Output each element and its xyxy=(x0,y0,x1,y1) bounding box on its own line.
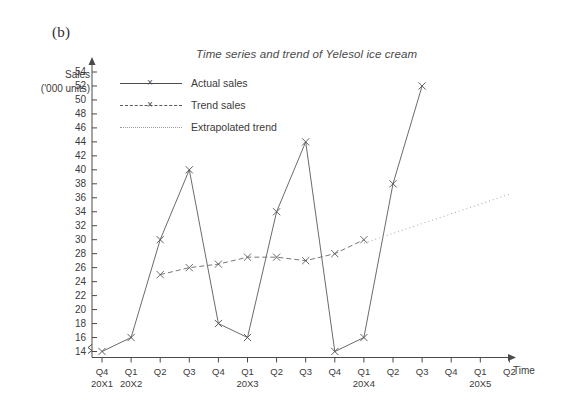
y-axis-tick-40: 40 xyxy=(66,165,86,175)
y-axis-tick-24: 24 xyxy=(66,277,86,287)
y-axis-tick-16: 16 xyxy=(66,333,86,343)
y-axis-tick-38: 38 xyxy=(66,179,86,189)
y-axis-tick-22: 22 xyxy=(66,291,86,301)
x-axis-tick-quarter-11: Q3 xyxy=(409,367,435,377)
y-axis-tick-52: 52 xyxy=(66,81,86,91)
y-axis-tick-32: 32 xyxy=(66,221,86,231)
x-axis-tick-quarter-13: Q1 xyxy=(467,367,493,377)
y-axis-tick-14: 14 xyxy=(66,347,86,357)
figure-container: (b) Time series and trend of Yelesol ice… xyxy=(0,0,567,411)
y-axis-tick-30: 30 xyxy=(66,235,86,245)
x-axis-tick-quarter-7: Q3 xyxy=(293,367,319,377)
y-axis-tick-46: 46 xyxy=(66,123,86,133)
y-axis-tick-18: 18 xyxy=(66,319,86,329)
y-axis-tick-42: 42 xyxy=(66,151,86,161)
y-axis-tick-28: 28 xyxy=(66,249,86,259)
x-axis-tick-quarter-5: Q1 xyxy=(235,367,261,377)
y-axis-tick-48: 48 xyxy=(66,109,86,119)
x-axis-tick-year-20X4: 20X4 xyxy=(344,379,384,389)
series-line-actual-sales xyxy=(102,86,422,352)
y-axis-tick-54: 54 xyxy=(66,67,86,77)
x-axis-tick-quarter-10: Q2 xyxy=(380,367,406,377)
x-axis-tick-quarter-9: Q1 xyxy=(351,367,377,377)
x-axis-tick-quarter-0: Q4 xyxy=(89,367,115,377)
x-axis-tick-quarter-8: Q4 xyxy=(322,367,348,377)
x-axis-tick-quarter-1: Q1 xyxy=(118,367,144,377)
y-axis-tick-36: 36 xyxy=(66,193,86,203)
y-axis-tick-20: 20 xyxy=(66,305,86,315)
y-axis-tick-44: 44 xyxy=(66,137,86,147)
x-axis-tick-quarter-12: Q4 xyxy=(438,367,464,377)
x-axis-tick-quarter-2: Q2 xyxy=(147,367,173,377)
y-axis-tick-50: 50 xyxy=(66,95,86,105)
x-axis-tick-quarter-6: Q2 xyxy=(264,367,290,377)
series-line-extrapolated-trend xyxy=(364,194,510,243)
x-axis-tick-quarter-3: Q3 xyxy=(176,367,202,377)
x-axis-tick-quarter-4: Q4 xyxy=(205,367,231,377)
x-axis-tick-year-20X2: 20X2 xyxy=(111,379,151,389)
x-axis-tick-year-20X3: 20X3 xyxy=(228,379,268,389)
y-axis-tick-34: 34 xyxy=(66,207,86,217)
y-axis-tick-26: 26 xyxy=(66,263,86,273)
x-axis-label: Time xyxy=(513,365,535,376)
x-axis-tick-year-20X5: 20X5 xyxy=(460,379,500,389)
